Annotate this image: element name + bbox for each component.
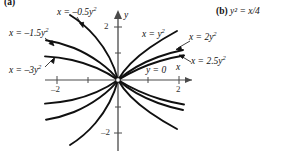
- leader-arrow-a-neg0.5: [80, 22, 84, 27]
- annotation-text: x = –3y: [9, 65, 38, 75]
- x-axis-label: x: [176, 62, 180, 72]
- x-tick-label-2: 2: [176, 84, 181, 94]
- annotation-text: x = –0.5y: [57, 7, 93, 17]
- panel-b-label: (b) y² = x/4: [216, 6, 260, 16]
- panel-b-equation: y² = x/4: [230, 6, 260, 16]
- curve-a-neg0.5: [70, 15, 118, 80]
- annotation-line-y-zero: y = 0: [146, 66, 166, 76]
- origin-point: [116, 78, 121, 83]
- y-tick-label--2: –2: [101, 127, 110, 137]
- annotation-exponent: 2: [213, 30, 216, 37]
- annotation-curve-a-neg1.5: x = –1.5y2: [9, 29, 48, 39]
- y-tick-label-2: 2: [104, 21, 109, 31]
- annotation-curve-a-2: x = 2y2: [189, 33, 217, 43]
- annotation-text: x = –1.5y: [9, 28, 45, 38]
- annotation-curve-a-neg0.5: x = –0.5y2: [57, 8, 96, 18]
- annotation-curve-a-2.5: x = 2.5y2: [191, 57, 226, 67]
- panel-b-tag: (b): [216, 6, 228, 16]
- annotation-text: x = 2y: [189, 32, 213, 42]
- x-axis-arrowhead: [185, 77, 192, 83]
- x-tick-label--2: –2: [51, 84, 60, 94]
- curve-a-neg0.5-lower: [70, 80, 118, 145]
- parabola-family-plot: [0, 0, 293, 151]
- annotation-curve-a-1: x = y2: [142, 30, 165, 40]
- annotation-curve-a-neg3: x = –3y2: [9, 66, 41, 76]
- figure-container: (a) (b) y² = x/4 x = –0.5y2 x = –1.5y2 x…: [0, 0, 293, 151]
- annotation-exponent: 2: [222, 54, 225, 61]
- annotation-exponent: 2: [38, 63, 41, 70]
- annotation-exponent: 2: [93, 5, 96, 12]
- annotation-exponent: 2: [162, 27, 165, 34]
- leader-arrow-a-neg3: [51, 57, 55, 63]
- y-axis-label: y: [124, 10, 128, 20]
- annotation-text: x = y: [142, 29, 162, 39]
- y-axis-arrowhead: [114, 10, 122, 19]
- panel-a-tag: (a): [4, 0, 15, 7]
- annotation-exponent: 2: [45, 26, 48, 33]
- annotation-text: x = 2.5y: [191, 56, 222, 66]
